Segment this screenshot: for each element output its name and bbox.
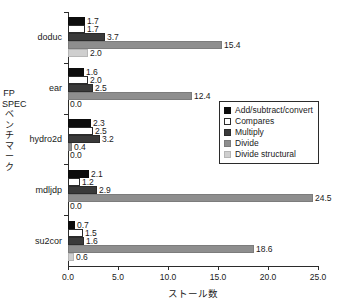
bar [68, 92, 192, 100]
x-tick-mark [268, 266, 269, 270]
x-tick-mark [118, 266, 119, 270]
legend-item: Add/subtract/convert [224, 105, 313, 116]
bar [68, 229, 83, 237]
bar-value-label: 3.2 [100, 134, 114, 144]
bar-value-label: 2.0 [88, 48, 102, 58]
y-tick-mark [64, 215, 69, 216]
x-axis-title: ストール数 [68, 286, 318, 300]
legend-item: Compares [224, 116, 313, 127]
x-tick-label: 25.0 [310, 272, 327, 282]
y-tick-mark [64, 12, 69, 13]
legend-label: Compares [235, 116, 274, 127]
legend-label: Divide structural [235, 149, 296, 160]
legend-swatch-icon [224, 151, 231, 158]
bar [68, 127, 93, 135]
category-label: ear [49, 83, 62, 93]
bar [68, 119, 91, 127]
x-tick-label: 15.0 [210, 272, 227, 282]
category-label: mdljdp [35, 185, 62, 195]
bar-value-label: 15.4 [222, 40, 241, 50]
bar-chart: FP SPECベンチマーク 0.05.010.015.020.025.0 dod… [0, 0, 338, 305]
legend-label: Multiply [235, 127, 264, 138]
legend-label: Divide [235, 138, 259, 149]
bar-value-label: 12.4 [192, 91, 211, 101]
bar-value-label: 0.0 [68, 150, 82, 160]
x-tick-mark [168, 266, 169, 270]
legend-swatch-icon [224, 118, 231, 125]
bar [68, 76, 88, 84]
category-label: su2cor [35, 236, 62, 246]
x-tick-label: 20.0 [260, 272, 277, 282]
legend-item: Divide structural [224, 149, 313, 160]
bar-value-label: 24.5 [313, 193, 332, 203]
bar [68, 178, 80, 186]
x-tick-mark [318, 266, 319, 270]
category-label: doduc [37, 32, 62, 42]
bar [68, 17, 85, 25]
bar [68, 245, 254, 253]
x-tick-label: 5.0 [112, 272, 124, 282]
x-axis-line [68, 266, 318, 267]
legend-swatch-icon [224, 140, 231, 147]
bar [68, 33, 105, 41]
bar [68, 186, 97, 194]
bar-value-label: 0.0 [68, 99, 82, 109]
bar [68, 237, 84, 245]
y-tick-mark [64, 63, 69, 64]
legend-label: Add/subtract/convert [235, 105, 313, 116]
legend-swatch-icon [224, 129, 231, 136]
chart-legend: Add/subtract/convert Compares Multiply D… [219, 101, 319, 164]
bar [68, 194, 313, 202]
legend-item: Multiply [224, 127, 313, 138]
x-tick-mark [218, 266, 219, 270]
bar [68, 84, 93, 92]
bar [68, 68, 84, 76]
x-tick-mark [68, 266, 69, 270]
bar-value-label: 0.0 [68, 201, 82, 211]
x-tick-label: 0.0 [62, 272, 74, 282]
y-tick-mark [64, 164, 69, 165]
y-tick-mark [64, 114, 69, 115]
bar-value-label: 0.6 [74, 252, 88, 262]
bar-value-label: 18.6 [254, 244, 273, 254]
y-axis-title: FP SPECベンチマーク [2, 88, 16, 172]
bar [68, 49, 88, 57]
category-label: hydro2d [29, 134, 62, 144]
x-tick-label: 10.0 [160, 272, 177, 282]
bar [68, 221, 75, 229]
bar [68, 25, 85, 33]
legend-item: Divide [224, 138, 313, 149]
legend-swatch-icon [224, 107, 231, 114]
